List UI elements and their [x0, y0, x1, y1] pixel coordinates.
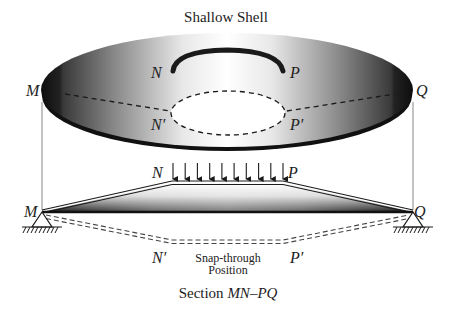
snap-through-label-line2: Position	[208, 263, 247, 277]
section-caption: Section MN–PQ	[179, 285, 278, 301]
pin-support-right-icon	[393, 212, 433, 233]
label-q-section: Q	[414, 203, 426, 220]
section-caption-prefix: Section	[179, 285, 228, 301]
label-m-section: M	[23, 203, 39, 220]
label-p-shell: P	[289, 64, 300, 81]
distributed-load-arrows	[173, 163, 283, 179]
diagram-title: Shallow Shell	[184, 9, 268, 25]
label-m-shell: M	[25, 82, 41, 99]
shallow-shell-diagram: Shallow Shell M Q N P N′ P′	[0, 0, 452, 314]
label-n-prime-shell: N′	[150, 116, 166, 133]
snap-through-line-top	[46, 215, 409, 240]
label-n-section: N	[151, 164, 164, 181]
shell-3d-view	[41, 33, 413, 151]
section-caption-italic: MN–PQ	[226, 285, 277, 301]
label-n-shell: N	[150, 64, 163, 81]
label-p-prime-shell: P′	[289, 116, 304, 133]
cross-section	[22, 163, 433, 244]
label-n-prime-section: N′	[151, 249, 167, 266]
label-p-section: P	[287, 164, 298, 181]
label-q-shell: Q	[416, 82, 428, 99]
dashed-dimple-ellipse	[171, 91, 285, 135]
label-p-prime-section: P′	[289, 249, 304, 266]
snap-through-line-bottom	[46, 219, 409, 244]
